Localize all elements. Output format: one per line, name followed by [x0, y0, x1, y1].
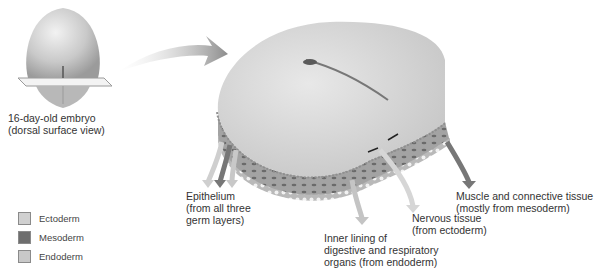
mesoderm-arrow — [447, 142, 476, 189]
nervous-tissue-label: Nervous tissue (from ectoderm) — [412, 212, 487, 236]
primitive-node — [303, 59, 317, 65]
ectoderm-swatch — [18, 212, 31, 225]
mesoderm-swatch — [18, 231, 31, 244]
muscle-tissue-label: Muscle and connective tissue (mostly fro… — [456, 190, 593, 214]
zoom-arrow — [118, 36, 228, 72]
legend-item-mesoderm: Mesoderm — [18, 228, 84, 246]
legend-item-endoderm: Endoderm — [18, 247, 84, 265]
embryo-caption: 16-day-old embryo (dorsal surface view) — [8, 112, 105, 136]
small-embryo — [18, 8, 112, 108]
inner-lining-label: Inner lining of digestive and respirator… — [324, 232, 438, 268]
epithelium-label: Epithelium (from all three germ layers) — [186, 190, 251, 226]
tissue-block — [218, 22, 450, 201]
germ-layer-diagram: 16-day-old embryo (dorsal surface view) … — [0, 0, 597, 271]
endoderm-swatch — [18, 250, 31, 263]
cut-plane — [18, 78, 112, 86]
legend: Ectoderm Mesoderm Endoderm — [18, 209, 84, 266]
legend-item-ectoderm: Ectoderm — [18, 209, 84, 227]
